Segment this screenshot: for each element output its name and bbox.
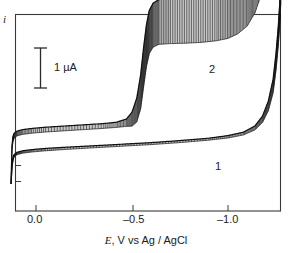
curve-label-1: 1 <box>215 161 221 172</box>
x-tick-label-2: –1.0 <box>217 214 238 225</box>
x-tick-label-1: –0.5 <box>123 214 144 225</box>
x-axis-title: E, V vs Ag / AgCl <box>0 235 292 246</box>
x-tick-label-0: 0.0 <box>27 214 42 225</box>
curve-label-2: 2 <box>209 64 215 75</box>
scale-bar-label: 1 µA <box>54 62 77 73</box>
y-axis-label: i <box>3 14 6 25</box>
x-axis-title-rest: , V vs Ag / AgCl <box>111 234 187 246</box>
voltammogram-figure <box>0 0 292 253</box>
